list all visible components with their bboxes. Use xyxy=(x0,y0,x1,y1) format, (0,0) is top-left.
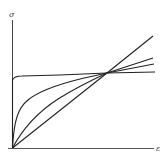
curve-strong-hardening xyxy=(13,64,155,148)
stress-strain-figure: σ ε xyxy=(0,0,164,166)
x-axis-label-epsilon: ε xyxy=(156,145,160,153)
plot-canvas xyxy=(0,0,164,166)
curve-moderate-hardening xyxy=(13,58,154,148)
curve-rigid-plastic xyxy=(13,72,156,148)
y-axis-label-sigma: σ xyxy=(9,11,14,19)
curve-linear-elastic xyxy=(13,36,154,148)
